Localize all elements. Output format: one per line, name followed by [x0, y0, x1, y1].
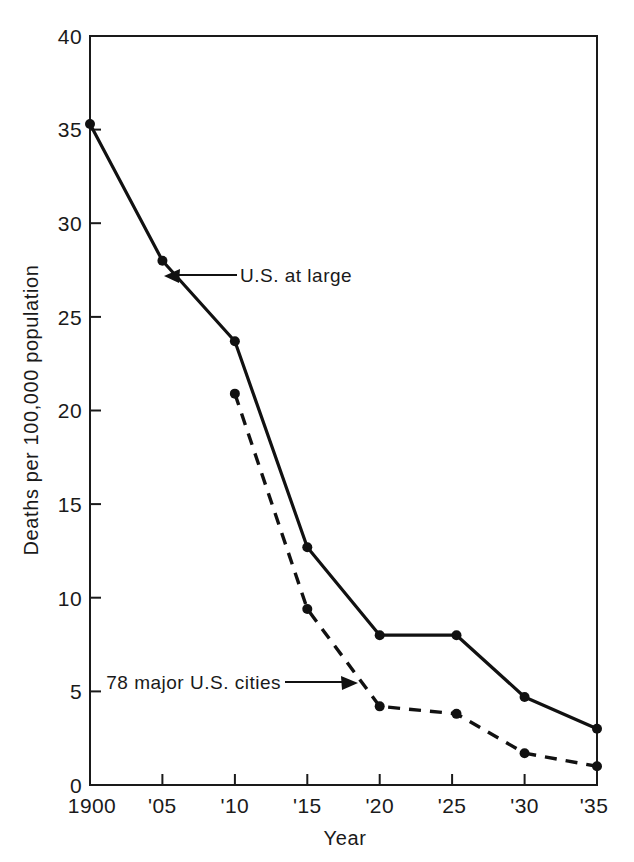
- y-tick-label-20: 20: [58, 399, 82, 422]
- y-tick-label-35: 35: [58, 118, 82, 141]
- x-tick-label-15: '15: [293, 794, 322, 817]
- y-tick-label-10: 10: [58, 587, 82, 610]
- figure-container: 0 5 10 15 20 25 30 35 40 Deaths per 100,…: [0, 0, 634, 862]
- annotation-78-cities: 78 major U.S. cities: [106, 672, 358, 693]
- y-tick-label-25: 25: [58, 306, 82, 329]
- data-point-marker: [520, 692, 530, 702]
- arrow-right-icon: [341, 676, 358, 690]
- y-tick-label-15: 15: [58, 493, 82, 516]
- y-axis-ticks: [90, 36, 101, 785]
- data-point-marker: [451, 630, 461, 640]
- annotation-us-at-large: U.S. at large: [164, 265, 352, 286]
- data-point-marker: [230, 336, 240, 346]
- x-tick-label-30: '30: [510, 794, 539, 817]
- x-tick-label-25: '25: [438, 794, 467, 817]
- data-point-marker: [592, 724, 602, 734]
- series-line: [90, 124, 597, 729]
- x-axis-title: Year: [324, 827, 367, 849]
- x-tick-label-20: '20: [365, 794, 394, 817]
- data-point-marker: [302, 542, 312, 552]
- data-point-marker: [520, 748, 530, 758]
- data-point-marker: [230, 389, 240, 399]
- data-point-marker: [157, 256, 167, 266]
- y-axis-tick-labels: 0 5 10 15 20 25 30 35 40: [58, 25, 82, 797]
- data-point-marker: [375, 630, 385, 640]
- y-tick-label-5: 5: [70, 680, 82, 703]
- x-tick-label-1900: 1900: [68, 794, 116, 817]
- series-line: [235, 394, 597, 767]
- x-tick-label-10: '10: [221, 794, 250, 817]
- y-axis-title: Deaths per 100,000 population: [20, 265, 42, 556]
- x-tick-label-35: '35: [580, 794, 609, 817]
- x-axis-ticks: [90, 774, 597, 785]
- x-tick-label-05: '05: [148, 794, 177, 817]
- series-us-at-large: [85, 119, 602, 734]
- y-tick-label-40: 40: [58, 25, 82, 48]
- line-chart: 0 5 10 15 20 25 30 35 40 Deaths per 100,…: [0, 0, 634, 862]
- data-point-marker: [592, 761, 602, 771]
- x-axis-tick-labels: 1900 '05 '10 '15 '20 '25 '30 '35: [68, 794, 608, 817]
- annotation-label-us-at-large: U.S. at large: [240, 265, 352, 286]
- data-point-marker: [451, 709, 461, 719]
- data-point-marker: [302, 604, 312, 614]
- data-point-marker: [375, 701, 385, 711]
- data-point-marker: [85, 119, 95, 129]
- series-major-cities: [230, 389, 602, 772]
- y-tick-label-30: 30: [58, 212, 82, 235]
- annotation-label-78-cities: 78 major U.S. cities: [106, 672, 281, 693]
